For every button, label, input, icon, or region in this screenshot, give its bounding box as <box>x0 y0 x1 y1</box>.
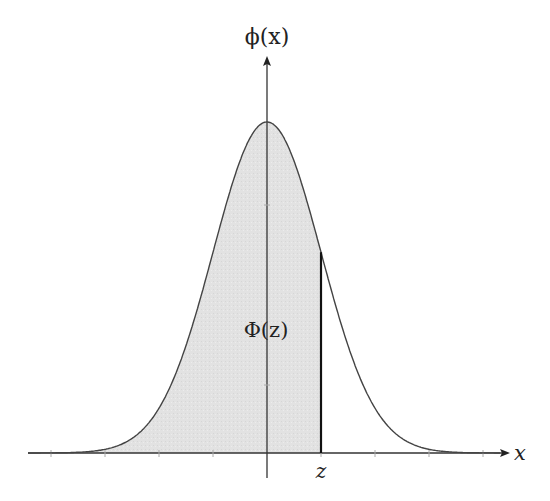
y-axis-label: ϕ(x) <box>245 24 290 49</box>
x-axis-label: x <box>514 441 526 465</box>
normal-distribution-diagram: ϕ(x) x z Φ(z) <box>0 0 550 501</box>
area-label: Φ(z) <box>244 318 289 342</box>
shaded-area-phi-z <box>28 122 321 453</box>
z-label: z <box>315 459 327 483</box>
